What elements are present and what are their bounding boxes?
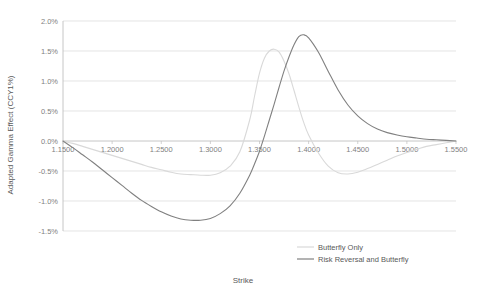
- y-tick-label: -1.0%: [38, 197, 58, 206]
- x-tick-label: 1.4500: [346, 145, 369, 154]
- y-axis-title: Adapted Gamma Effect (CCY1%): [6, 75, 15, 194]
- x-tick-label: 1.2500: [150, 145, 173, 154]
- gamma-effect-line-chart: 2.0%1.5%1.0%0.5%0.0%-0.5%-1.0%-1.5% 1.15…: [0, 0, 479, 300]
- y-tick-label: 1.0%: [41, 77, 58, 86]
- legend-label: Risk Reversal and Butterfly: [318, 255, 409, 264]
- y-tick-label: -0.5%: [38, 167, 58, 176]
- x-tick-label: 1.3000: [199, 145, 222, 154]
- x-tick-label: 1.5500: [445, 145, 468, 154]
- x-axis-title: Strike: [233, 276, 254, 285]
- y-tick-label: 2.0%: [41, 17, 58, 26]
- y-tick-label: -1.5%: [38, 227, 58, 236]
- chart-container: 2.0%1.5%1.0%0.5%0.0%-0.5%-1.0%-1.5% 1.15…: [0, 0, 479, 300]
- legend-label: Butterfly Only: [318, 243, 363, 252]
- y-tick-label: 0.5%: [41, 107, 58, 116]
- y-tick-label: 1.5%: [41, 47, 58, 56]
